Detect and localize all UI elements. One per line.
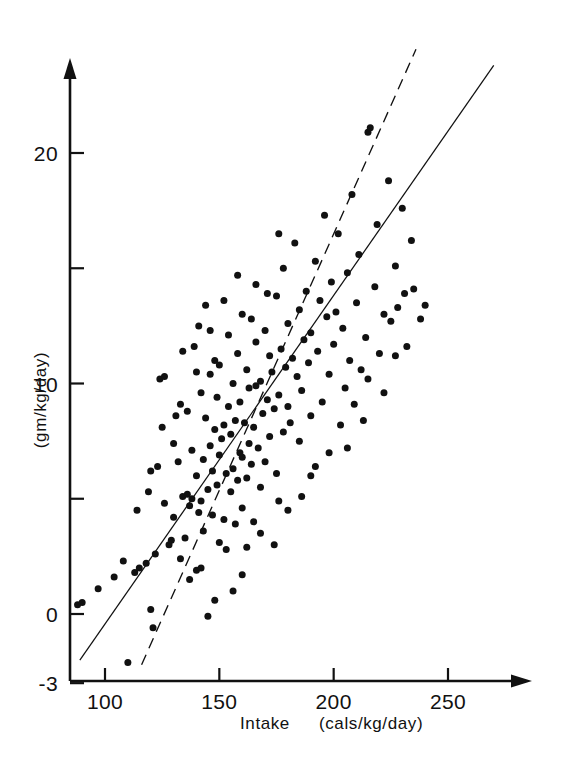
data-point	[223, 470, 230, 477]
data-point	[186, 502, 193, 509]
data-point	[223, 546, 230, 553]
data-point	[392, 262, 399, 269]
dashed-regression-line	[142, 49, 416, 664]
data-point	[252, 281, 259, 288]
data-point	[280, 428, 287, 435]
data-point	[337, 421, 344, 428]
scatter-plot-svg: -301020 100150200250 (gm/kg/day) Intake …	[0, 0, 568, 764]
data-point	[234, 477, 241, 484]
data-point	[257, 530, 264, 537]
x-tick-label-150: 150	[201, 690, 237, 713]
data-point	[170, 514, 177, 521]
data-point	[79, 599, 86, 606]
data-point	[271, 541, 278, 548]
x-tick-label-200: 200	[316, 690, 352, 713]
data-point	[241, 419, 248, 426]
data-point	[193, 368, 200, 375]
data-point	[239, 454, 246, 461]
data-point	[394, 304, 401, 311]
x-axis-arrowhead	[511, 675, 532, 688]
data-point	[307, 329, 314, 336]
data-point	[346, 357, 353, 364]
data-point	[207, 371, 214, 378]
data-point	[262, 458, 269, 465]
data-point	[207, 327, 214, 334]
data-point	[179, 348, 186, 355]
data-point	[380, 311, 387, 318]
data-point	[289, 355, 296, 362]
data-point	[246, 440, 253, 447]
data-point	[234, 350, 241, 357]
x-tick-label-100: 100	[87, 690, 123, 713]
data-point	[188, 447, 195, 454]
data-point	[284, 320, 291, 327]
data-point	[257, 484, 264, 491]
data-point	[214, 394, 221, 401]
data-point	[321, 212, 328, 219]
data-point	[147, 468, 154, 475]
data-point	[417, 315, 424, 322]
data-point	[134, 507, 141, 514]
data-point	[211, 426, 218, 433]
data-point	[284, 403, 291, 410]
data-point	[95, 585, 102, 592]
data-point	[218, 435, 225, 442]
data-point	[243, 475, 250, 482]
data-point	[403, 343, 410, 350]
data-point	[143, 560, 150, 567]
data-point	[264, 290, 271, 297]
data-point	[161, 500, 168, 507]
data-point	[195, 322, 202, 329]
data-point	[326, 449, 333, 456]
data-point	[177, 401, 184, 408]
data-point	[111, 574, 118, 581]
data-point	[182, 534, 189, 541]
data-point	[280, 265, 287, 272]
data-point	[319, 398, 326, 405]
data-point	[298, 493, 305, 500]
data-point	[184, 408, 191, 415]
data-point	[296, 306, 303, 313]
data-point	[220, 421, 227, 428]
data-point	[300, 336, 307, 343]
data-point	[275, 498, 282, 505]
data-point	[344, 269, 351, 276]
x-axis-title-units: (cals/kg/day)	[319, 714, 423, 733]
data-point	[188, 495, 195, 502]
data-point	[259, 410, 266, 417]
data-point	[120, 557, 127, 564]
data-point	[410, 285, 417, 292]
data-point	[291, 239, 298, 246]
x-tick-label-250: 250	[430, 690, 466, 713]
data-point	[252, 339, 259, 346]
data-point	[342, 385, 349, 392]
data-point	[161, 373, 168, 380]
data-point	[124, 659, 131, 666]
data-point	[316, 297, 323, 304]
data-point	[220, 297, 227, 304]
data-point	[392, 352, 399, 359]
data-point	[177, 555, 184, 562]
data-point	[214, 481, 221, 488]
data-point	[170, 440, 177, 447]
data-point	[266, 352, 273, 359]
data-point	[323, 313, 330, 320]
data-point	[198, 564, 205, 571]
data-point	[358, 366, 365, 373]
data-point	[296, 438, 303, 445]
data-point	[230, 465, 237, 472]
data-point	[246, 385, 253, 392]
data-point	[202, 415, 209, 422]
data-point	[220, 516, 227, 523]
data-point	[275, 230, 282, 237]
data-point	[314, 348, 321, 355]
data-point	[193, 472, 200, 479]
data-point	[230, 380, 237, 387]
data-point	[271, 405, 278, 412]
data-point	[239, 504, 246, 511]
data-point	[374, 221, 381, 228]
data-point	[294, 373, 301, 380]
data-point	[330, 341, 337, 348]
data-point	[236, 398, 243, 405]
y-axis-title: (gm/kg/day)	[31, 352, 50, 448]
